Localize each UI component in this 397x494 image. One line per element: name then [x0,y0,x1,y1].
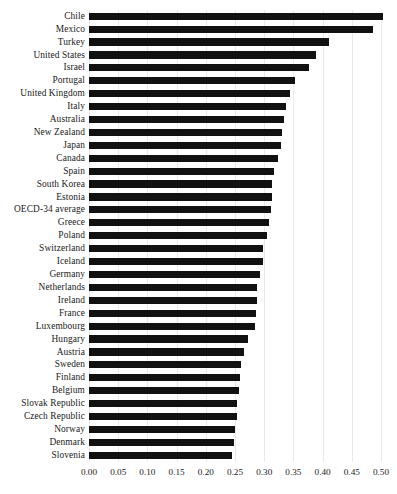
category-label: Slovenia [0,451,85,460]
bar [89,103,286,110]
category-label: Switzerland [0,244,85,253]
bar-row [89,346,381,359]
bar-row [89,204,381,217]
x-tick-label: 0.30 [256,466,272,478]
bar-row [89,268,381,281]
category-label: Greece [0,218,85,227]
category-label: United States [0,51,85,60]
bar [89,180,272,187]
bar [89,193,272,200]
bar [89,310,256,317]
category-label: New Zealand [0,128,85,137]
category-label: Austria [0,348,85,357]
category-label: Finland [0,373,85,382]
x-tick-label: 0.20 [198,466,214,478]
bar [89,38,329,45]
category-label: Australia [0,115,85,124]
category-label: Italy [0,102,85,111]
category-label: Hungary [0,335,85,344]
bar-row [89,10,381,23]
category-label: Luxembourg [0,322,85,331]
bar-row [89,449,381,462]
bar-chart: ChileMexicoTurkeyUnited StatesIsraelPort… [0,0,397,494]
bar-row [89,178,381,191]
bar [89,374,240,381]
bar-row [89,36,381,49]
x-tick-label: 0.40 [315,466,331,478]
gridline [381,10,382,462]
category-label: France [0,309,85,318]
bar-row [89,191,381,204]
bar [89,90,290,97]
bar-row [89,62,381,75]
bar-row [89,126,381,139]
bar-row [89,230,381,243]
bar-row [89,410,381,423]
bar-row [89,372,381,385]
bar-row [89,423,381,436]
bar [89,439,234,446]
category-label: Denmark [0,438,85,447]
x-tick-label: 0.00 [81,466,97,478]
x-tick-label: 0.45 [344,466,360,478]
bar-row [89,113,381,126]
category-label: Turkey [0,38,85,47]
bar-row [89,165,381,178]
x-tick-label: 0.25 [227,466,243,478]
category-label: Belgium [0,386,85,395]
category-label: Spain [0,167,85,176]
bar-row [89,333,381,346]
bar [89,258,263,265]
x-tick-label: 0.10 [139,466,155,478]
bar [89,26,373,33]
bar [89,64,309,71]
bar [89,51,316,58]
bar-row [89,23,381,36]
bar [89,361,241,368]
bar [89,400,237,407]
category-label: Mexico [0,25,85,34]
category-label: Israel [0,63,85,72]
category-label: Ireland [0,296,85,305]
bar-row [89,217,381,230]
bar-row [89,307,381,320]
bar-row [89,436,381,449]
category-label: Netherlands [0,283,85,292]
x-tick-label: 0.50 [373,466,389,478]
category-label: Germany [0,270,85,279]
bar [89,284,257,291]
x-tick-label: 0.15 [169,466,185,478]
bar [89,348,244,355]
bar-row [89,359,381,372]
bar-row [89,242,381,255]
x-tick-label: 0.05 [110,466,126,478]
bar [89,219,269,226]
bar [89,271,260,278]
category-axis: ChileMexicoTurkeyUnited StatesIsraelPort… [0,10,85,462]
bar-row [89,294,381,307]
bar-row [89,139,381,152]
category-label: Portugal [0,76,85,85]
bar-row [89,100,381,113]
bar-series [89,10,381,462]
bar-row [89,320,381,333]
bar [89,297,257,304]
bar [89,413,237,420]
category-label: Japan [0,141,85,150]
bar [89,116,284,123]
bar [89,129,282,136]
category-label: Poland [0,231,85,240]
bar [89,168,274,175]
category-label: Estonia [0,193,85,202]
bar [89,77,295,84]
category-label: Sweden [0,360,85,369]
bar [89,426,235,433]
bar [89,13,383,20]
bar-row [89,397,381,410]
value-axis: 0.000.050.100.150.200.250.300.350.400.45… [89,466,381,480]
bar-row [89,49,381,62]
bar [89,387,239,394]
bar [89,452,232,459]
category-label: Iceland [0,257,85,266]
bar [89,245,263,252]
